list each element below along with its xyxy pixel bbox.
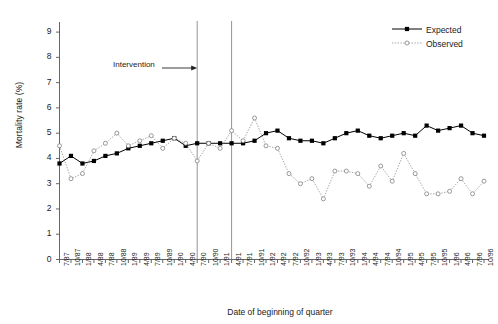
data-point xyxy=(287,172,291,176)
y-tick-label: 9 xyxy=(38,26,52,36)
x-tick-label: 1/95 xyxy=(407,252,414,266)
x-tick-label: 4/93 xyxy=(326,252,333,266)
y-tick-label: 7 xyxy=(38,77,52,87)
data-point xyxy=(115,131,119,135)
data-point xyxy=(447,126,451,130)
data-point xyxy=(459,123,463,127)
data-point xyxy=(229,141,233,145)
x-tick-label: 4/96 xyxy=(464,252,471,266)
data-point xyxy=(103,154,107,158)
data-point xyxy=(275,129,279,133)
data-point xyxy=(321,141,325,145)
data-point xyxy=(379,136,383,140)
data-point xyxy=(333,169,337,173)
data-point xyxy=(172,136,176,140)
data-point xyxy=(184,141,188,145)
data-point xyxy=(310,177,314,181)
x-tick-label: 7/89 xyxy=(154,252,161,266)
x-tick-label: 7/93 xyxy=(338,252,345,266)
annotation-arrow-head xyxy=(191,65,197,70)
data-point xyxy=(149,141,153,145)
data-point xyxy=(321,197,325,201)
data-point xyxy=(149,134,153,138)
x-tick-label: 1/92 xyxy=(269,252,276,266)
data-point xyxy=(195,159,199,163)
data-point xyxy=(367,184,371,188)
data-point xyxy=(287,136,291,140)
data-point xyxy=(218,146,222,150)
data-point xyxy=(92,149,96,153)
data-point xyxy=(80,161,84,165)
data-point xyxy=(470,131,474,135)
y-tick-label: 0 xyxy=(38,254,52,264)
data-point xyxy=(402,131,406,135)
x-tick-label: 10/96 xyxy=(487,248,494,266)
plot-area xyxy=(0,0,498,324)
data-point xyxy=(241,139,245,143)
data-point xyxy=(482,179,486,183)
legend-marker-expected xyxy=(405,27,409,31)
data-point xyxy=(138,139,142,143)
data-point xyxy=(275,146,279,150)
x-tick-label: 1/89 xyxy=(131,252,138,266)
data-point xyxy=(195,141,199,145)
series-expected xyxy=(57,123,486,165)
data-point xyxy=(252,139,256,143)
data-point xyxy=(448,189,452,193)
data-point xyxy=(379,164,383,168)
data-point xyxy=(264,131,268,135)
x-tick-label: 10/87 xyxy=(74,248,81,266)
x-tick-label: 7/90 xyxy=(200,252,207,266)
data-point xyxy=(57,161,61,165)
x-tick-label: 10/90 xyxy=(212,248,219,266)
x-tick-label: 1/90 xyxy=(177,252,184,266)
data-point xyxy=(413,172,417,176)
x-tick-label: 10/95 xyxy=(441,248,448,266)
data-point xyxy=(138,144,142,148)
data-point xyxy=(310,139,314,143)
data-point xyxy=(482,134,486,138)
data-point xyxy=(126,144,130,148)
data-point xyxy=(92,159,96,163)
x-tick-label: 4/92 xyxy=(280,252,287,266)
data-point xyxy=(253,116,257,120)
y-tick-label: 4 xyxy=(38,152,52,162)
chart-figure: Mortality rate (%) Date of beginning of … xyxy=(0,0,498,324)
y-tick-label: 6 xyxy=(38,102,52,112)
data-point xyxy=(471,192,475,196)
data-point xyxy=(344,169,348,173)
data-point xyxy=(161,139,165,143)
data-point xyxy=(390,179,394,183)
series-line-expected xyxy=(60,126,485,164)
y-tick-label: 2 xyxy=(38,203,52,213)
x-tick-label: 1/88 xyxy=(85,252,92,266)
y-tick-label: 3 xyxy=(38,178,52,188)
data-point xyxy=(413,134,417,138)
x-tick-label: 10/89 xyxy=(166,248,173,266)
data-point xyxy=(103,141,107,145)
data-point xyxy=(161,146,165,150)
x-tick-label: 10/91 xyxy=(258,248,265,266)
x-tick-label: 7/95 xyxy=(430,252,437,266)
x-tick-label: 10/94 xyxy=(395,248,402,266)
x-tick-label: 7/91 xyxy=(246,252,253,266)
data-point xyxy=(298,139,302,143)
data-point xyxy=(356,172,360,176)
x-tick-label: 7/94 xyxy=(384,252,391,266)
y-tick-label: 1 xyxy=(38,228,52,238)
data-point xyxy=(69,154,73,158)
series-line-observed xyxy=(60,118,485,199)
data-point xyxy=(436,129,440,133)
data-point xyxy=(333,136,337,140)
data-point xyxy=(367,134,371,138)
x-tick-label: 10/88 xyxy=(120,248,127,266)
data-point xyxy=(459,177,463,181)
x-tick-label: 7/92 xyxy=(292,252,299,266)
legend-marker-observed xyxy=(405,41,409,45)
data-point xyxy=(356,129,360,133)
data-point xyxy=(390,134,394,138)
x-tick-label: 1/91 xyxy=(223,252,230,266)
data-point xyxy=(230,129,234,133)
data-point xyxy=(58,144,62,148)
data-point xyxy=(402,151,406,155)
